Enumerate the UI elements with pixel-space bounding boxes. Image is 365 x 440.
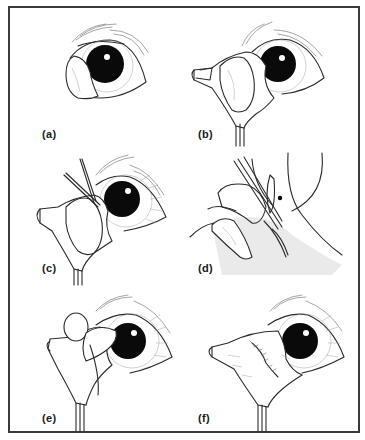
eye-illustration-f [182, 285, 364, 433]
eye-illustration-c [0, 145, 182, 285]
panel-label-b: (b) [198, 128, 213, 140]
eye-illustration-a [0, 0, 182, 145]
panel-e: (e) [0, 285, 182, 433]
panel-d: (d) [182, 145, 364, 285]
panel-c: (c) [0, 145, 182, 285]
eye-illustration-e [0, 285, 182, 433]
panel-a: (a) [0, 0, 182, 145]
panel-label-f: (f) [198, 412, 210, 424]
panel-f: (f) [182, 285, 364, 433]
panel-label-e: (e) [42, 412, 56, 424]
panel-label-d: (d) [198, 262, 213, 274]
panel-b: (b) [182, 0, 364, 145]
eye-illustration-b [182, 0, 364, 145]
panel-label-a: (a) [42, 128, 56, 140]
panel-label-c: (c) [42, 262, 56, 274]
